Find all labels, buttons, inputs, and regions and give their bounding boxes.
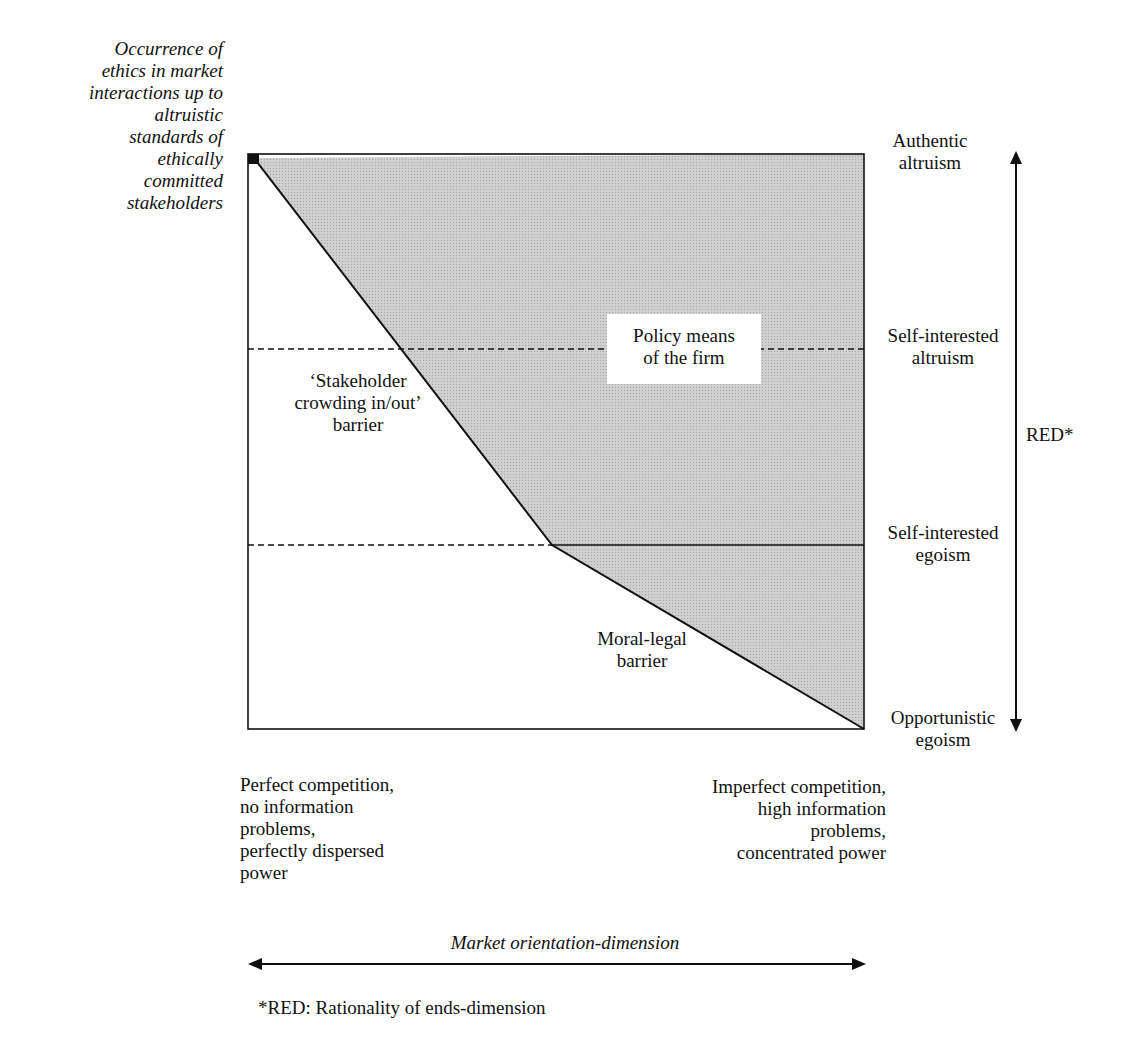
arrow-up-icon (1010, 151, 1022, 164)
y-axis-label: Occurrence of ethics in market interacti… (40, 38, 223, 214)
shaded-policy-area (254, 154, 864, 729)
arrow-right-icon (852, 958, 866, 970)
level-self-interested-egoism: Self-interested egoism (868, 522, 1018, 566)
level-self-interested-altruism: Self-interested altruism (868, 325, 1018, 369)
footnote: *RED: Rationality of ends-dimension (258, 997, 678, 1019)
level-opportunistic-egoism: Opportunistic egoism (868, 707, 1018, 751)
red-axis-label: RED* (1026, 424, 1074, 446)
corner-marker (248, 154, 259, 164)
arrow-left-icon (248, 958, 262, 970)
moral-legal-barrier-label: Moral-legal barrier (572, 628, 712, 672)
x-extreme-right-label: Imperfect competition, high information … (640, 776, 886, 864)
policy-means-label: Policy means of the firm (607, 314, 761, 384)
x-axis-label: Market orientation-dimension (400, 932, 730, 954)
stakeholder-barrier-label: ‘Stakeholder crowding in/out’ barrier (258, 370, 458, 436)
level-authentic-altruism: Authentic altruism (880, 130, 980, 174)
x-extreme-left-label: Perfect competition, no information prob… (240, 774, 480, 884)
